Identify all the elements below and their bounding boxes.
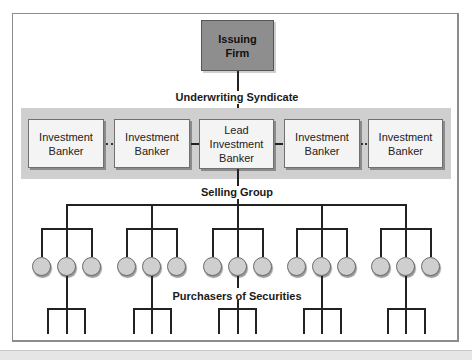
connector bbox=[262, 228, 264, 257]
connector bbox=[151, 204, 153, 257]
selling-member-circle bbox=[371, 257, 390, 276]
connector bbox=[133, 308, 171, 310]
solid-link bbox=[191, 143, 199, 145]
selling-group-label: Selling Group bbox=[201, 186, 273, 198]
connector bbox=[91, 228, 93, 257]
banker-label: Banker bbox=[388, 145, 423, 157]
connector bbox=[237, 300, 239, 334]
selling-member-circle bbox=[203, 257, 222, 276]
selling-member-circle bbox=[253, 257, 272, 276]
underwriting-syndicate-label: Underwriting Syndicate bbox=[176, 91, 299, 103]
connector bbox=[218, 308, 256, 310]
connector bbox=[387, 308, 425, 310]
banker-label: Banker bbox=[49, 145, 84, 157]
selling-member-circle bbox=[117, 257, 136, 276]
connector bbox=[237, 276, 239, 288]
connector bbox=[255, 308, 257, 334]
connector bbox=[303, 308, 341, 310]
issuing-firm-line1: Issuing bbox=[218, 33, 257, 45]
banker-label: Investment bbox=[125, 131, 179, 143]
connector bbox=[424, 308, 426, 334]
banker-label: Lead bbox=[224, 124, 248, 136]
connector-lead-to-selling bbox=[237, 169, 239, 186]
lead-investment-banker: LeadInvestmentBanker bbox=[199, 119, 274, 169]
issuing-firm-node: IssuingFirm bbox=[201, 20, 274, 71]
connector bbox=[321, 204, 323, 257]
connector bbox=[380, 228, 431, 230]
issuing-firm-line2: Firm bbox=[226, 47, 250, 59]
investment-banker-1: InvestmentBanker bbox=[28, 119, 104, 168]
selling-member-circle bbox=[337, 257, 356, 276]
banker-label: Banker bbox=[219, 152, 254, 164]
connector bbox=[170, 308, 172, 334]
connector bbox=[346, 228, 348, 257]
selling-member-circle bbox=[82, 257, 101, 276]
connector bbox=[66, 204, 68, 257]
connector bbox=[41, 228, 43, 257]
banker-label: Investment bbox=[39, 131, 93, 143]
connector-issuer-to-lead bbox=[237, 71, 239, 91]
connector bbox=[47, 308, 85, 310]
connector bbox=[41, 228, 92, 230]
connector bbox=[296, 228, 298, 257]
connector bbox=[84, 308, 86, 334]
connector bbox=[340, 308, 342, 334]
banker-label: Banker bbox=[135, 145, 170, 157]
connector bbox=[303, 308, 305, 334]
connector bbox=[321, 276, 323, 334]
connector bbox=[66, 276, 68, 334]
connector bbox=[296, 228, 347, 230]
bottom-band bbox=[0, 350, 472, 360]
selling-member-circle bbox=[228, 257, 247, 276]
connector bbox=[126, 228, 177, 230]
selling-member-circle bbox=[167, 257, 186, 276]
connector bbox=[405, 204, 407, 257]
selling-member-circle bbox=[312, 257, 331, 276]
investment-banker-4: InvestmentBanker bbox=[284, 119, 360, 168]
connector bbox=[380, 228, 382, 257]
connector bbox=[430, 228, 432, 257]
banker-label: Investment bbox=[379, 131, 433, 143]
selling-member-circle bbox=[421, 257, 440, 276]
connector bbox=[237, 204, 239, 257]
connector bbox=[218, 308, 220, 334]
solid-link bbox=[275, 143, 283, 145]
selling-group-bus bbox=[66, 204, 406, 206]
investment-banker-2: InvestmentBanker bbox=[114, 119, 190, 168]
selling-member-circle bbox=[396, 257, 415, 276]
investment-banker-5: InvestmentBanker bbox=[368, 119, 443, 168]
selling-member-circle bbox=[142, 257, 161, 276]
dotted-link bbox=[361, 143, 367, 145]
banker-label: Investment bbox=[210, 138, 264, 150]
dotted-link bbox=[106, 143, 113, 145]
connector bbox=[212, 228, 214, 257]
connector bbox=[176, 228, 178, 257]
banker-label: Banker bbox=[305, 145, 340, 157]
selling-member-circle bbox=[287, 257, 306, 276]
connector bbox=[212, 228, 263, 230]
connector bbox=[151, 276, 153, 334]
banker-label: Investment bbox=[295, 131, 349, 143]
connector bbox=[405, 276, 407, 334]
selling-member-circle bbox=[57, 257, 76, 276]
connector bbox=[47, 308, 49, 334]
connector bbox=[126, 228, 128, 257]
connector bbox=[387, 308, 389, 334]
connector bbox=[133, 308, 135, 334]
selling-member-circle bbox=[32, 257, 51, 276]
